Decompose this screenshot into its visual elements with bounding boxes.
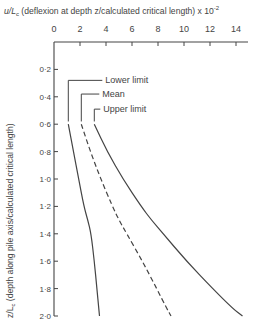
- y-tick-label: 1·2: [39, 202, 51, 211]
- x-tick-label: 4: [103, 24, 108, 34]
- annotation-label: Mean: [102, 89, 125, 99]
- x-tick-label: 14: [231, 24, 241, 34]
- x-tick-label: 10: [179, 24, 189, 34]
- y-tick-label: 1·8: [39, 285, 51, 294]
- x-tick-label: 2: [77, 24, 82, 34]
- series-upper-limit: [94, 124, 242, 316]
- y-tick-label: 0·8: [39, 148, 51, 157]
- y-axis-label: z/Lc (depth along pile axis/calculated c…: [5, 123, 16, 318]
- annotation-label: Upper limit: [103, 104, 147, 114]
- x-tick-label: 8: [155, 24, 160, 34]
- series-lower-limit: [68, 124, 99, 316]
- y-tick-label: 0·6: [39, 120, 51, 129]
- annotation-label: Lower limit: [105, 75, 149, 85]
- y-tick-label: 1·0: [39, 175, 51, 184]
- y-tick-label: 0·2: [39, 65, 51, 74]
- x-tick-label: 6: [129, 24, 134, 34]
- y-tick-label: 1·4: [39, 230, 51, 239]
- x-tick-label: 0: [51, 24, 56, 34]
- y-tick-label: 2·0: [39, 312, 51, 321]
- y-tick-label: 1·6: [39, 257, 51, 266]
- series-mean: [81, 124, 171, 316]
- y-tick-label: 0·4: [39, 93, 51, 102]
- deflexion-chart: u/Lc (deflexion at depth z/calculated cr…: [0, 0, 270, 331]
- x-axis-label: u/Lc (deflexion at depth z/calculated cr…: [4, 5, 220, 17]
- x-tick-label: 12: [205, 24, 215, 34]
